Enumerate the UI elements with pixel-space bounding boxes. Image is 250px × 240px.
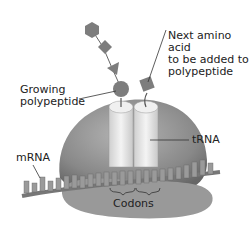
leader-mrna: [33, 165, 40, 178]
label-growing-polypeptide: Growing polypeptide: [20, 84, 85, 108]
amino-acid-triangle: [107, 62, 119, 75]
label-line: Next amino acid: [168, 30, 250, 54]
label-next-amino-acid: Next amino acid to be added to polypepti…: [168, 30, 250, 78]
label-line: polypeptide: [20, 96, 85, 108]
label-mrna: mRNA: [16, 152, 50, 164]
amino-acid-chain: [85, 22, 129, 97]
label-codons: Codons: [113, 198, 154, 210]
amino-acid-circle: [113, 81, 129, 97]
label-trna: tRNA: [192, 134, 220, 146]
trna-left: [109, 101, 133, 167]
label-line: polypeptide: [168, 66, 250, 78]
amino-acid-hexagon: [85, 22, 99, 38]
leader-next-amino-acid: [148, 30, 166, 82]
next-amino-acid-square: [139, 76, 154, 91]
trna-right: [134, 101, 158, 167]
